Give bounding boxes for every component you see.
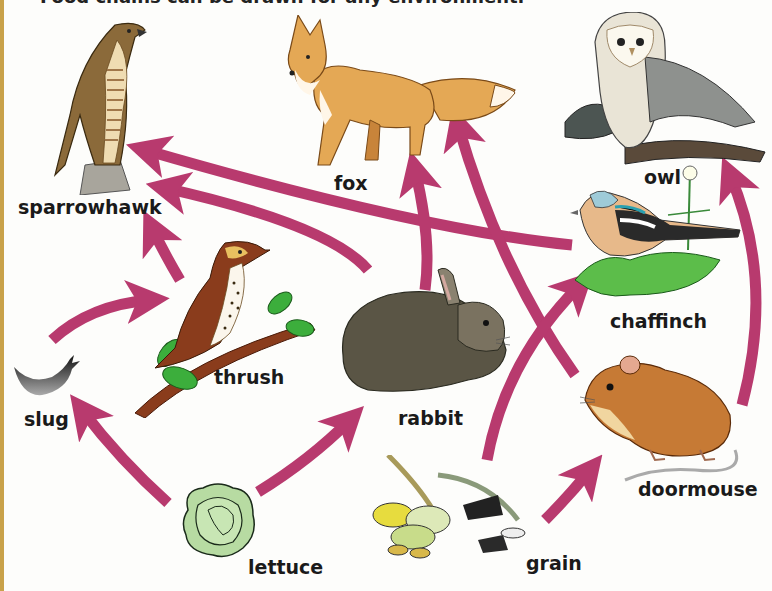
doormouse-illustration bbox=[575, 355, 750, 485]
label-lettuce: lettuce bbox=[248, 556, 323, 578]
rabbit-illustration bbox=[338, 265, 513, 400]
fox-illustration bbox=[270, 15, 520, 175]
label-doormouse: doormouse bbox=[638, 478, 758, 500]
owl-illustration bbox=[555, 12, 770, 167]
arrow-lettuce-to-rabbit bbox=[258, 420, 350, 492]
thrush-illustration bbox=[130, 238, 320, 418]
grain-illustration bbox=[368, 455, 548, 565]
slug-illustration bbox=[12, 355, 80, 400]
label-fox: fox bbox=[334, 172, 368, 194]
arrow-lettuce-to-slug bbox=[82, 410, 168, 503]
label-slug: slug bbox=[24, 408, 69, 430]
label-sparrowhawk: sparrowhawk bbox=[18, 196, 162, 218]
label-thrush: thrush bbox=[214, 366, 284, 388]
label-grain: grain bbox=[526, 552, 582, 574]
sparrowhawk-illustration bbox=[25, 15, 150, 195]
label-chaffinch: chaffinch bbox=[610, 310, 707, 332]
chaffinch-illustration bbox=[570, 165, 745, 300]
label-rabbit: rabbit bbox=[398, 407, 463, 429]
lettuce-illustration bbox=[178, 480, 258, 560]
